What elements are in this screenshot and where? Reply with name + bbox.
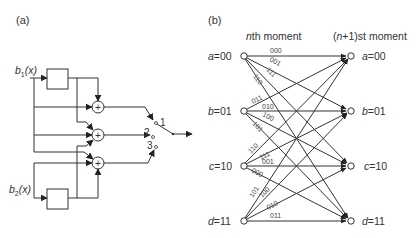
- left-column-header: nth moment: [246, 30, 302, 42]
- left-states: a=00 b=01 c=10 d=11: [208, 50, 247, 227]
- input-b2-label: b2(x): [9, 183, 31, 197]
- switch-label-2: 2: [144, 127, 150, 138]
- state-node-b-n: [241, 108, 247, 114]
- adder-3: +: [92, 157, 104, 169]
- edge-label: 110: [252, 73, 264, 86]
- switch-contact-3: [155, 146, 158, 149]
- state-label-b-n: b=01: [208, 105, 232, 117]
- delay-box-1: [47, 69, 68, 89]
- box2-to-adder3: [68, 169, 98, 198]
- state-node-a-n: [241, 53, 247, 59]
- edge-label: 011: [270, 212, 281, 219]
- right-states: a=00 b=01 c=10 d=11: [348, 50, 387, 227]
- box1-to-adder1: [68, 78, 98, 101]
- state-label-d-n1: d=11: [362, 215, 385, 227]
- right-column-header: (n+1)st moment: [333, 30, 407, 42]
- panel-a: (a) b1(x) b2(x) + + +: [9, 14, 192, 209]
- edge-label: 110: [247, 142, 260, 155]
- edge-label: 010: [265, 199, 279, 211]
- b1-to-adder3: [34, 152, 93, 159]
- state-node-d-n: [241, 218, 247, 224]
- edge-label: 000: [251, 167, 265, 179]
- state-node-c-n1: [348, 163, 354, 169]
- b2-input-arrow: [34, 163, 47, 198]
- edge-label: 001: [262, 158, 274, 165]
- delay-box-2: [47, 189, 68, 209]
- state-node-c-n: [241, 163, 247, 169]
- state-node-d-n1: [348, 218, 354, 224]
- adder-2: +: [92, 129, 104, 141]
- edge-label: 100: [258, 185, 271, 198]
- state-label-c-n: c=10: [209, 160, 232, 172]
- edge-label: 010: [262, 103, 274, 110]
- state-node-b-n1: [348, 108, 354, 114]
- adder-1: +: [92, 101, 104, 113]
- adder3-to-switch: [104, 150, 154, 163]
- state-label-a-n1: a=00: [362, 50, 386, 62]
- state-label-c-n1: c=10: [364, 160, 387, 172]
- state-label-d-n: d=11: [208, 215, 231, 227]
- input-b1-label: b1(x): [15, 64, 37, 78]
- edge-label: 000: [270, 47, 282, 54]
- state-label-a-n: a=00: [208, 50, 232, 62]
- box1-to-adder2: [77, 78, 93, 130]
- state-node-a-n1: [348, 53, 354, 59]
- svg-text:+: +: [95, 158, 101, 169]
- adder1-to-switch: [104, 107, 153, 120]
- switch-contact-2: [152, 136, 155, 139]
- edge-label: 111: [265, 66, 278, 79]
- box2-to-adder2: [77, 140, 93, 198]
- panel-b: (b) nth moment (n+1)st moment: [208, 14, 407, 227]
- panel-b-label: (b): [208, 14, 221, 26]
- svg-text:+: +: [95, 102, 101, 113]
- edge-label: 100: [262, 111, 276, 123]
- figure-canvas: (a) b1(x) b2(x) + + +: [0, 0, 417, 238]
- panel-a-label: (a): [16, 14, 29, 26]
- state-label-b-n1: b=01: [362, 105, 386, 117]
- switch-label-3: 3: [147, 140, 153, 151]
- svg-text:+: +: [95, 130, 101, 141]
